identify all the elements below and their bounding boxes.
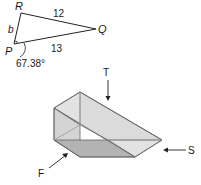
- angle-p-label: 67.38°: [16, 58, 45, 69]
- triangle-pqr: R Q P 12 b 13 67.38°: [5, 0, 107, 69]
- side-view-arrow: [163, 148, 186, 153]
- top-view-arrow: [106, 80, 111, 101]
- vertex-q-label: Q: [98, 23, 107, 35]
- side-view-label: S: [188, 145, 195, 156]
- vertex-r-label: R: [15, 0, 23, 12]
- angle-arc: [20, 43, 25, 57]
- vertex-p-label: P: [5, 45, 13, 57]
- side-pq-label: 13: [51, 43, 63, 54]
- side-rq-label: 12: [53, 8, 65, 19]
- triangular-prism: [54, 92, 162, 157]
- top-view-label: T: [103, 67, 109, 78]
- diagram-canvas: R Q P 12 b 13 67.38°: [0, 0, 201, 185]
- side-rp-label: b: [8, 24, 14, 35]
- front-view-label: F: [38, 168, 44, 179]
- front-view-arrow: [49, 153, 68, 168]
